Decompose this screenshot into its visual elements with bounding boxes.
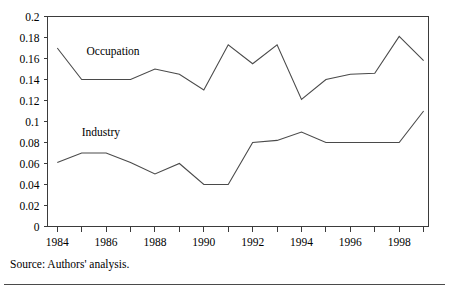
y-tick-label: 0.02	[19, 200, 39, 212]
x-tick-label: 1996	[339, 236, 362, 248]
chart-svg: 00.020.040.060.080.10.120.140.160.180.2 …	[0, 0, 449, 250]
y-tick-label: 0.12	[19, 95, 39, 107]
y-tick-label: 0.2	[25, 11, 40, 23]
x-tick-label: 1988	[143, 236, 166, 248]
y-tick-label: 0.06	[19, 158, 39, 170]
y-tick-label: 0.04	[19, 179, 39, 191]
source-note: Source: Authors' analysis.	[10, 258, 129, 270]
series-label-industry: Industry	[82, 126, 121, 139]
x-tick-label: 1994	[290, 236, 313, 248]
y-tick-label: 0.18	[19, 32, 39, 44]
data-series-group	[57, 36, 423, 184]
x-tick-label: 1986	[95, 236, 118, 248]
y-tick-label: 0.14	[19, 74, 39, 86]
line-chart: 00.020.040.060.080.10.120.140.160.180.2 …	[0, 0, 449, 250]
figure-container: 00.020.040.060.080.10.120.140.160.180.2 …	[0, 0, 449, 292]
series-line-industry	[57, 111, 423, 185]
y-tick-label: 0	[34, 221, 40, 233]
series-label-occupation: Occupation	[87, 45, 140, 58]
series-inline-labels: OccupationIndustry	[82, 45, 140, 139]
y-tick-label: 0.08	[19, 137, 39, 149]
y-tick-label: 0.1	[25, 116, 40, 128]
x-tick-label: 1990	[192, 236, 215, 248]
y-axis-ticks: 00.020.040.060.080.10.120.140.160.180.2	[19, 11, 47, 233]
x-axis-ticks: 19841986198819901992199419961998	[46, 227, 424, 248]
bottom-divider	[4, 284, 445, 285]
x-tick-label: 1992	[241, 236, 264, 248]
y-tick-label: 0.16	[19, 53, 39, 65]
x-tick-label: 1984	[46, 236, 69, 248]
x-tick-label: 1998	[388, 236, 411, 248]
